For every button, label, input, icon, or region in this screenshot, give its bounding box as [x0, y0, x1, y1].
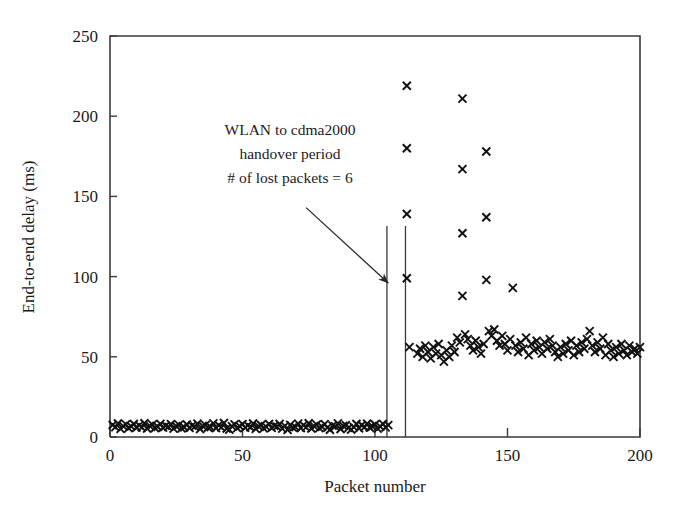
y-tick-label-50: 50: [81, 348, 98, 367]
y-tick-label-100: 100: [73, 268, 99, 287]
x-tick-label-50: 50: [234, 446, 251, 465]
y-axis-title: End-to-end delay (ms): [19, 161, 38, 314]
x-tick-label-200: 200: [627, 446, 653, 465]
y-tick-label-0: 0: [90, 428, 99, 447]
y-tick-label-200: 200: [73, 107, 99, 126]
annotation-line-3: # of lost packets = 6: [227, 169, 353, 186]
x-tick-label-0: 0: [106, 446, 115, 465]
x-tick-label-150: 150: [495, 446, 521, 465]
x-tick-label-100: 100: [362, 446, 388, 465]
y-tick-label-150: 150: [73, 187, 99, 206]
scatter-plot: 050100150200 050100150200250 Packet numb…: [0, 0, 682, 514]
chart-figure: 050100150200 050100150200250 Packet numb…: [0, 0, 682, 514]
y-tick-label-250: 250: [73, 27, 99, 46]
annotation-line-1: WLAN to cdma2000: [225, 121, 356, 138]
annotation-line-2: handover period: [239, 145, 340, 162]
x-axis-title: Packet number: [324, 477, 426, 496]
